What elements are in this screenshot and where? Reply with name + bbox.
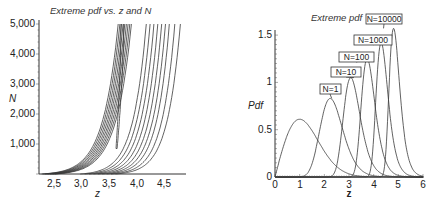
label-text-n1: N=1 <box>323 84 339 94</box>
left-y-ticks: 5,000 4,000 3,000 2,000 1,000 <box>10 18 35 149</box>
contour-line-left-2 <box>45 24 122 174</box>
series-labels: N=1 N=10 N=100 N=1000 N=10000 <box>320 14 402 94</box>
left-ytick-2000: 2,000 <box>10 108 35 119</box>
label-n1: N=1 <box>320 84 341 94</box>
pdf-curve-n10 <box>275 78 423 177</box>
right-ytick-1.5: 1.5 <box>258 29 272 40</box>
left-chart: Extreme pdf vs. z and N 5,000 4,000 3,00… <box>9 5 186 199</box>
left-chart-title: Extreme pdf vs. z and N <box>50 5 152 16</box>
right-xtick-4: 4 <box>371 179 377 190</box>
left-x-axis-title: z <box>94 188 100 199</box>
contour-line-left-5 <box>50 24 126 174</box>
right-ytick-0.5: 0.5 <box>258 124 272 135</box>
left-x-ticks: 2,5 3,0 3,5 4,0 4,5 <box>47 178 171 189</box>
label-text-n100: N=100 <box>344 52 370 62</box>
left-xtick-4.5: 4,5 <box>157 178 171 189</box>
figure: Extreme pdf vs. z and N 5,000 4,000 3,00… <box>0 0 429 200</box>
label-n1000: N=1000 <box>354 35 392 45</box>
right-xtick-5: 5 <box>395 179 401 190</box>
right-chart-title: Extreme pdf <box>311 12 364 23</box>
label-n10000: N=10000 <box>366 14 402 24</box>
left-xtick-2.5: 2,5 <box>47 178 61 189</box>
label-text-n10: N=10 <box>336 67 357 77</box>
right-xtick-2: 2 <box>321 179 327 190</box>
left-ytick-3000: 3,000 <box>10 78 35 89</box>
right-xtick-6: 6 <box>420 179 426 190</box>
pdf-curve-n1 <box>275 98 423 177</box>
left-ytick-4000: 4,000 <box>10 48 35 59</box>
left-xtick-4.0: 4,0 <box>130 178 144 189</box>
left-contour-lines <box>36 24 180 174</box>
label-text-n1000: N=1000 <box>358 35 388 45</box>
right-xtick-0: 0 <box>272 179 278 190</box>
label-n100: N=100 <box>339 52 374 62</box>
right-ytick-1: 1 <box>266 76 272 87</box>
left-xtick-3.5: 3,5 <box>102 178 116 189</box>
left-ytick-1000: 1,000 <box>10 138 35 149</box>
label-n10: N=10 <box>331 67 361 77</box>
left-y-axis-title: N <box>9 93 17 104</box>
left-ytick-5000: 5,000 <box>10 18 35 29</box>
pdf-curve-n1000 <box>275 43 423 177</box>
label-connector <box>330 94 332 98</box>
contour-line-left-1 <box>43 24 120 174</box>
pdf-curve-n10000 <box>275 29 423 178</box>
contour-line-left-3 <box>47 24 123 174</box>
left-xtick-3.0: 3,0 <box>74 178 88 189</box>
right-y-axis-title: Pdf <box>248 100 264 111</box>
right-x-axis-title: z <box>347 188 352 199</box>
label-text-n10000: N=10000 <box>367 14 402 24</box>
contour-line-left-4 <box>48 24 125 174</box>
right-pdf-curves <box>275 24 423 177</box>
right-chart: Extreme pdf 0 0.5 1 1.5 0 1 2 3 4 5 6 Pd… <box>248 12 426 199</box>
right-xtick-1: 1 <box>297 179 303 190</box>
contour-line-left-0 <box>42 24 119 174</box>
